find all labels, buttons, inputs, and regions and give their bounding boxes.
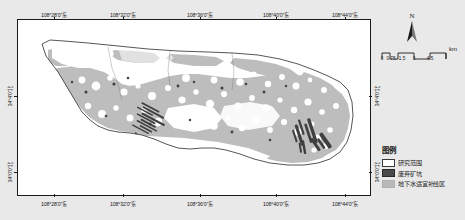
legend-swatch-abandoned-pit-icon xyxy=(382,169,395,177)
legend-item-recharge-zone[interactable]: 地下水适宜补给区 xyxy=(382,179,462,189)
lon-tick-top-4 xyxy=(345,17,346,20)
scale-tick-0: 0 xyxy=(381,56,384,61)
lat-label-right-1: 34°0'0"北 xyxy=(373,162,380,183)
lat-label-left-1: 34°0'0"北 xyxy=(6,162,13,183)
lon-tick-top-1 xyxy=(123,17,124,20)
north-arrow-label: N xyxy=(396,12,428,20)
scale-tick-1: 0.75 xyxy=(387,56,396,61)
lon-tick-bottom-3 xyxy=(276,194,277,197)
lat-label-left-0: 34°4'0"北 xyxy=(6,86,13,107)
lat-tick-left-0 xyxy=(14,96,17,97)
legend-swatch-recharge-zone-icon xyxy=(382,180,395,188)
legend-label-study-area: 研究范围 xyxy=(398,158,422,167)
scale-tick-3: 3 xyxy=(413,56,416,61)
lon-label-bottom-0: 108°28'0"东 xyxy=(41,200,67,207)
lon-label-bottom-1: 108°32'0"东 xyxy=(110,200,136,207)
north-arrow: N xyxy=(396,12,428,46)
lon-tick-bottom-2 xyxy=(200,194,201,197)
scale-bar: 0 0.75 1.5 3 4.5 km xyxy=(381,46,461,64)
map-canvas xyxy=(18,20,370,195)
north-arrow-icon xyxy=(396,20,428,44)
map-figure: 108°28'0"东 108°32'0"东 108°36'0"东 108°40'… xyxy=(0,0,465,220)
legend: 图例 研究范围 废弃矿坑 地下水适宜补给区 xyxy=(382,144,462,189)
map-frame[interactable] xyxy=(17,19,371,196)
lon-label-bottom-3: 108°40'0"东 xyxy=(263,200,289,207)
lon-tick-bottom-1 xyxy=(123,194,124,197)
legend-title: 图例 xyxy=(382,144,462,155)
legend-item-abandoned-pit[interactable]: 废弃矿坑 xyxy=(382,168,462,178)
lon-label-bottom-4: 108°44'0"东 xyxy=(332,200,358,207)
lon-tick-top-2 xyxy=(200,17,201,20)
legend-label-recharge-zone: 地下水适宜补给区 xyxy=(398,179,445,188)
legend-swatch-study-area-icon xyxy=(382,159,395,167)
legend-label-abandoned-pit: 废弃矿坑 xyxy=(398,169,422,178)
lon-label-bottom-2: 108°36'0"东 xyxy=(187,200,213,207)
lon-tick-bottom-0 xyxy=(54,194,55,197)
scale-tick-4: 4.5 xyxy=(427,56,433,61)
lat-label-right-0: 34°4'0"北 xyxy=(373,86,380,107)
scale-bar-ticks: 0 0.75 1.5 3 4.5 xyxy=(381,56,447,64)
lon-tick-top-3 xyxy=(276,17,277,20)
scale-bar-unit: km xyxy=(449,46,457,52)
lon-tick-top-0 xyxy=(54,17,55,20)
lon-tick-bottom-4 xyxy=(345,194,346,197)
scale-tick-2: 1.5 xyxy=(399,56,405,61)
lat-tick-left-1 xyxy=(14,172,17,173)
legend-item-study-area[interactable]: 研究范围 xyxy=(382,158,462,168)
